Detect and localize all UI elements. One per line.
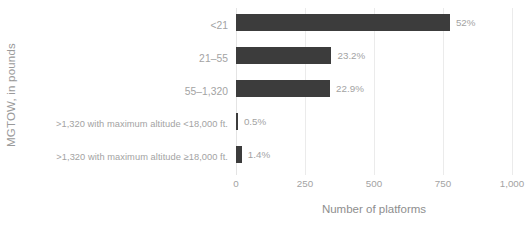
x-axis-tick-labels: 02505007501,000 [236, 178, 512, 192]
category-label: >1,320 with maximum altitude <18,000 ft. [24, 119, 228, 129]
x-tick-label: 750 [435, 178, 451, 189]
category-label: 21–55 [24, 53, 228, 64]
bar[interactable] [236, 113, 238, 130]
x-tick-label: 1,000 [500, 178, 525, 189]
category-label: <21 [24, 20, 228, 31]
category-label: >1,320 with maximum altitude ≥18,000 ft. [24, 152, 228, 162]
y-axis-title: MGTOW, in pounds [0, 0, 22, 190]
bar-value-label: 23.2% [337, 47, 365, 64]
bar-value-label: 1.4% [248, 146, 270, 163]
bar[interactable] [236, 80, 330, 97]
bar-value-label: 22.9% [336, 80, 364, 97]
horizontal-bar-chart: MGTOW, in pounds <2121–5555–1,320>1,320 … [0, 0, 526, 237]
gridline-750 [443, 8, 444, 175]
gridline-500 [374, 8, 375, 175]
plot-area: 52%23.2%22.9%0.5%1.4% [236, 8, 512, 175]
y-axis-title-text: MGTOW, in pounds [5, 43, 17, 147]
bar-value-label: 52% [456, 14, 476, 31]
bar[interactable] [236, 14, 450, 31]
x-tick-label: 500 [366, 178, 382, 189]
bar-value-label: 0.5% [244, 113, 266, 130]
bar[interactable] [236, 146, 242, 163]
gridline-1000 [512, 8, 513, 175]
category-label: 55–1,320 [24, 86, 228, 97]
x-tick-label: 0 [233, 178, 238, 189]
x-axis-title: Number of platforms [236, 203, 512, 215]
bar[interactable] [236, 47, 331, 64]
y-axis-category-labels: <2121–5555–1,320>1,320 with maximum alti… [24, 10, 228, 173]
x-tick-label: 250 [297, 178, 313, 189]
